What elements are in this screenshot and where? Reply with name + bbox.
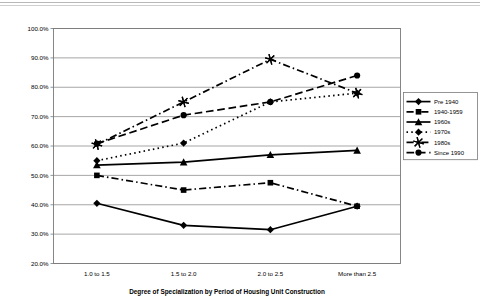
line-chart: 20.0%30.0%40.0%50.0%60.0%70.0%80.0%90.0%… — [0, 7, 480, 302]
data-series — [92, 54, 363, 150]
y-axis-tick-label: 100.0% — [28, 25, 49, 32]
x-axis-category-label: 1.5 to 2.0 — [171, 270, 197, 277]
y-axis-tick-label: 40.0% — [31, 201, 49, 208]
x-axis-category-label: 2.0 to 2.5 — [257, 270, 283, 277]
y-axis-tick-label: 30.0% — [31, 230, 49, 237]
data-point-marker — [93, 200, 100, 207]
chart-legend: Pre 19401940-19591960s1970s1980sSince 19… — [404, 93, 478, 160]
data-point-marker — [178, 97, 188, 107]
chart-page: 20.0%30.0%40.0%50.0%60.0%70.0%80.0%90.0%… — [0, 0, 480, 302]
series-line — [97, 59, 357, 144]
data-point-marker — [93, 157, 100, 164]
page-header-rule — [0, 0, 480, 7]
data-point-marker — [265, 54, 275, 64]
data-point-marker — [268, 180, 274, 186]
data-point-marker — [94, 141, 100, 147]
data-series — [94, 72, 360, 146]
y-axis-tick-labels: 20.0%30.0%40.0%50.0%60.0%70.0%80.0%90.0%… — [28, 25, 54, 267]
x-axis-title: Degree of Specialization by Period of Ho… — [129, 288, 325, 296]
legend-label: 1960s — [434, 119, 450, 125]
chart-canvas: 20.0%30.0%40.0%50.0%60.0%70.0%80.0%90.0%… — [0, 7, 480, 302]
data-series — [93, 147, 361, 169]
data-point-marker — [180, 222, 187, 229]
data-series-group — [92, 54, 363, 233]
legend-label: Since 1990 — [434, 150, 465, 156]
x-axis-category-label: 1.0 to 1.5 — [84, 270, 110, 277]
x-axis-category-labels: 1.0 to 1.51.5 to 2.02.0 to 2.5More than … — [84, 270, 377, 277]
data-point-marker — [354, 203, 360, 209]
series-line — [97, 93, 357, 161]
data-point-marker — [267, 99, 273, 105]
y-axis-tick-label: 60.0% — [31, 142, 49, 149]
series-line — [97, 203, 357, 229]
series-line — [97, 150, 357, 165]
x-axis-category-label: More than 2.5 — [338, 270, 377, 277]
y-axis-tick-label: 70.0% — [31, 113, 49, 120]
header-rule-line-bottom — [0, 5, 480, 6]
y-axis-tick-label: 90.0% — [31, 54, 49, 61]
y-axis-tick-label: 80.0% — [31, 83, 49, 90]
data-point-marker — [416, 109, 422, 115]
legend-label: 1970s — [434, 129, 450, 135]
legend-label: Pre 1940 — [434, 99, 459, 105]
y-axis-tick-label: 50.0% — [31, 172, 49, 179]
data-point-marker — [180, 139, 187, 146]
header-rule-line-top — [0, 2, 480, 3]
data-point-marker — [94, 173, 100, 179]
y-axis-tick-label: 20.0% — [31, 260, 49, 267]
data-point-marker — [181, 187, 187, 193]
data-point-marker — [415, 150, 421, 156]
data-point-marker — [352, 88, 362, 98]
data-point-marker — [354, 72, 360, 78]
legend-label: 1980s — [434, 140, 450, 146]
series-line — [97, 76, 357, 144]
series-line — [97, 175, 357, 206]
data-series — [94, 173, 360, 209]
legend-label: 1940-1959 — [434, 109, 463, 115]
data-point-marker — [267, 226, 274, 233]
data-point-marker — [181, 112, 187, 118]
